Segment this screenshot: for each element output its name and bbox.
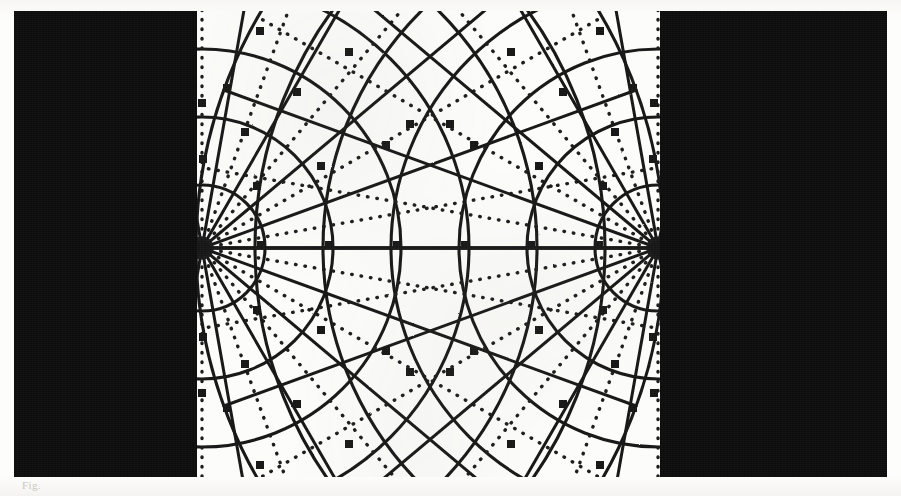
- figure-plate: [14, 11, 887, 477]
- figure-caption-text: Fig.: [22, 479, 41, 491]
- equipotential-arcs-right: [197, 11, 660, 477]
- right-focus-family: [197, 11, 660, 477]
- figure-drawing-window: [197, 11, 660, 477]
- radial-rays-left: [197, 11, 660, 477]
- radial-rays-right: [197, 11, 660, 477]
- figure-caption: Fig.: [0, 479, 901, 496]
- flow-net-svg: [197, 11, 660, 477]
- scanned-page: Fig.: [0, 0, 901, 496]
- orthogonal-dotted-curves-right: [203, 11, 660, 477]
- equipotential-arcs-left: [197, 11, 660, 477]
- left-focus-family: [197, 11, 660, 477]
